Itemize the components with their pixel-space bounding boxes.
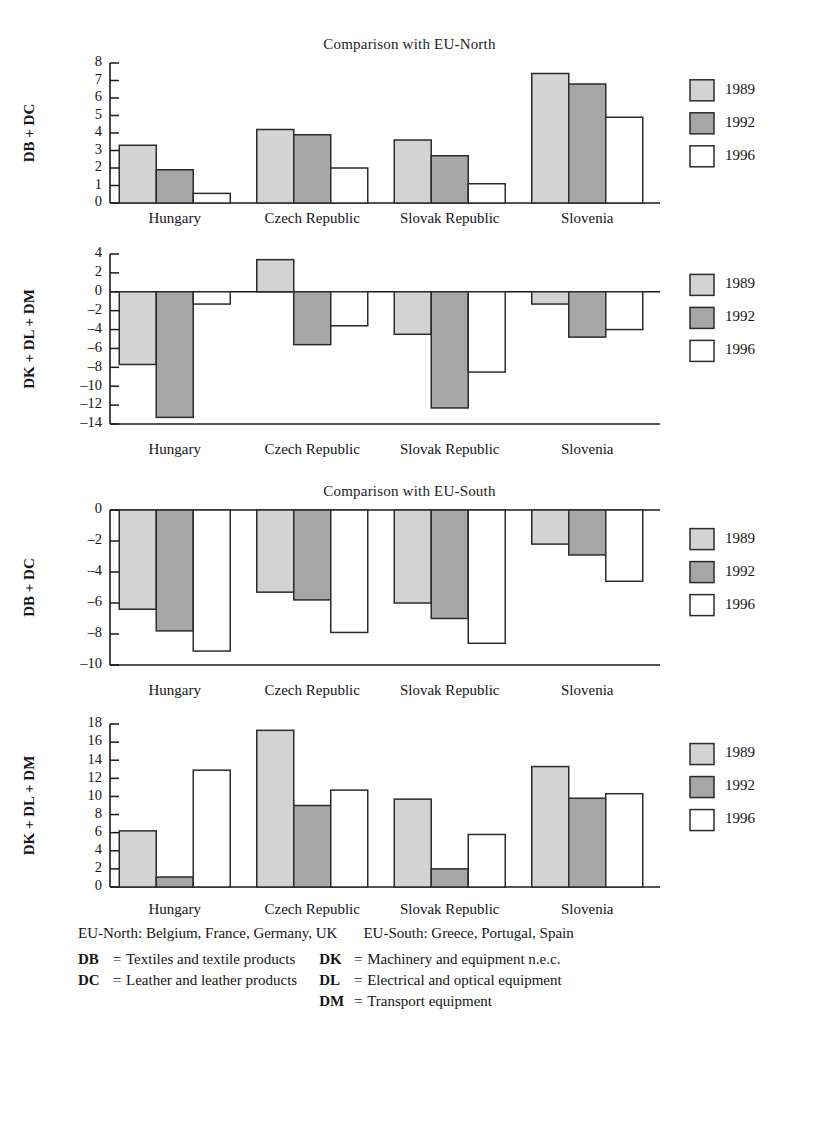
bar-hungary-1996 (193, 770, 230, 887)
y-tick-label: –10 (79, 655, 102, 671)
y-tick-label: 1 (95, 176, 102, 192)
category-label: Slovenia (561, 441, 614, 457)
legend-swatch-1992 (690, 777, 714, 798)
y-axis-title: DK + DL + DM (21, 289, 37, 389)
bar-slovenia-1992 (569, 292, 606, 337)
bar-czech-republic-1996 (331, 510, 368, 632)
bar-hungary-1989 (119, 145, 156, 203)
code-label: DC (78, 972, 108, 989)
chart-svg-north-dk-dl-dm: 420–2–4–6–8–10–12–14HungaryCzech Republi… (0, 246, 819, 461)
chart-svg-north-db-dc: 012345678HungaryCzech RepublicSlovak Rep… (0, 55, 819, 230)
y-tick-label: 7 (95, 71, 102, 87)
region-definitions: EU-North: Belgium, France, Germany, UK E… (78, 925, 819, 942)
legend-swatch-1996 (690, 340, 714, 361)
bar-slovenia-1992 (569, 510, 606, 555)
bar-slovenia-1989 (532, 74, 569, 204)
y-tick-label: 4 (95, 244, 103, 260)
y-tick-label: 0 (95, 500, 102, 516)
bar-czech-republic-1992 (294, 292, 331, 345)
y-tick-label: 0 (95, 877, 102, 893)
y-tick-label: 4 (95, 123, 103, 139)
y-tick-label: –2 (87, 301, 103, 317)
y-tick-label: –12 (79, 395, 102, 411)
legend-label-1992: 1992 (725, 308, 755, 324)
bar-slovak-republic-1989 (394, 292, 431, 335)
legend-label-1996: 1996 (725, 596, 756, 612)
bar-slovenia-1996 (606, 510, 643, 581)
legend-swatch-1992 (690, 113, 714, 134)
bar-slovak-republic-1996 (468, 184, 505, 203)
code-label: DM (319, 993, 349, 1010)
y-tick-label: –14 (79, 414, 103, 430)
code-label: DK (319, 951, 349, 968)
legend-label-1996: 1996 (725, 810, 756, 826)
y-tick-label: –10 (79, 377, 102, 393)
legend-label-1989: 1989 (725, 530, 755, 546)
bar-czech-republic-1992 (294, 135, 331, 203)
bar-slovenia-1992 (569, 84, 606, 203)
code-definition: Electrical and optical equipment (367, 972, 562, 989)
category-label: Slovenia (561, 901, 614, 917)
legend-label-1992: 1992 (725, 114, 755, 130)
y-tick-label: 2 (95, 859, 102, 875)
bar-czech-republic-1989 (257, 510, 294, 592)
bar-hungary-1992 (156, 510, 193, 631)
category-label: Slovak Republic (400, 901, 500, 917)
code-definition: Textiles and textile products (126, 951, 295, 968)
legend-label-1996: 1996 (725, 147, 756, 163)
y-axis-title: DB + DC (21, 104, 37, 163)
y-axis-title: DK + DL + DM (21, 756, 37, 856)
y-tick-label: 0 (95, 282, 102, 298)
y-tick-label: 3 (95, 141, 102, 157)
y-tick-label: 8 (95, 805, 102, 821)
code-definition: Leather and leather products (126, 972, 297, 989)
code-item: DL = Electrical and optical equipment (319, 972, 562, 989)
bar-slovenia-1989 (532, 510, 569, 544)
legend-swatch-1989 (690, 744, 714, 765)
bar-slovak-republic-1989 (394, 799, 431, 887)
y-tick-label: 8 (95, 53, 102, 69)
legend-label-1989: 1989 (725, 744, 755, 760)
code-definition: Transport equipment (367, 993, 492, 1010)
y-tick-label: –8 (87, 358, 103, 374)
y-tick-label: 6 (95, 88, 102, 104)
chart-south-db-dc: 0–2–4–6–8–10HungaryCzech RepublicSlovak … (0, 502, 819, 702)
bar-hungary-1989 (119, 831, 156, 887)
bar-slovak-republic-1996 (468, 834, 505, 887)
bar-hungary-1996 (193, 292, 230, 304)
bar-hungary-1996 (193, 510, 230, 651)
code-item: DB = Textiles and textile products (78, 951, 297, 968)
code-definitions: DB = Textiles and textile products DC = … (78, 951, 819, 1010)
code-equals: = (108, 972, 126, 989)
category-label: Hungary (149, 441, 202, 457)
category-label: Czech Republic (265, 901, 361, 917)
category-label: Slovak Republic (400, 682, 500, 698)
code-equals: = (349, 972, 367, 989)
bar-hungary-1989 (119, 510, 156, 609)
y-tick-label: 18 (88, 714, 103, 730)
chart-north-dk-dl-dm: 420–2–4–6–8–10–12–14HungaryCzech Republi… (0, 246, 819, 461)
footnotes: EU-North: Belgium, France, Germany, UK E… (0, 925, 819, 1010)
y-tick-label: 10 (88, 787, 103, 803)
code-column-right: DK = Machinery and equipment n.e.c. DL =… (319, 951, 562, 1010)
bar-slovak-republic-1989 (394, 510, 431, 603)
y-tick-label: 5 (95, 106, 102, 122)
bar-slovak-republic-1992 (431, 510, 468, 619)
y-tick-label: 0 (95, 193, 102, 209)
section-title-north: Comparison with EU-North (0, 36, 819, 53)
category-label: Hungary (149, 210, 202, 226)
code-column-left: DB = Textiles and textile products DC = … (78, 951, 297, 1010)
y-tick-label: –4 (87, 320, 103, 336)
bar-slovenia-1989 (532, 292, 569, 304)
bar-hungary-1989 (119, 292, 156, 365)
code-label: DB (78, 951, 108, 968)
bar-slovak-republic-1992 (431, 292, 468, 408)
y-tick-label: 4 (95, 841, 103, 857)
legend-label-1996: 1996 (725, 341, 756, 357)
bar-slovak-republic-1996 (468, 292, 505, 372)
y-tick-label: 16 (88, 732, 103, 748)
category-label: Hungary (149, 682, 202, 698)
code-equals: = (108, 951, 126, 968)
y-tick-label: 14 (88, 751, 103, 767)
legend-label-1992: 1992 (725, 777, 755, 793)
